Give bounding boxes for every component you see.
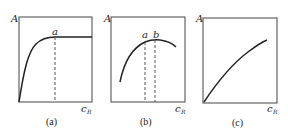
panel-b-frame: [111, 17, 185, 102]
panel-a-caption: (a): [46, 116, 57, 128]
panel-a-marker-a: a: [52, 26, 58, 37]
panel-b-marker-a: a: [142, 29, 148, 40]
panel-c-x-label-sub: R: [272, 108, 278, 115]
panel-c-y-label: A: [195, 13, 203, 24]
panel-b-x-label-sub: R: [180, 108, 186, 115]
figure: A a c R (a) A a b c R (b) A c R (c): [0, 0, 288, 133]
panel-a-y-label: A: [10, 13, 18, 24]
panel-b-y-label: A: [103, 13, 111, 24]
panel-b-marker-b: b: [153, 29, 159, 40]
panel-a-x-label-sub: R: [86, 108, 92, 115]
panel-a-curve: [19, 37, 92, 102]
panel-c-caption: (c): [232, 117, 243, 129]
panel-a: A a c R (a): [10, 13, 92, 128]
panel-c-curve: [204, 40, 267, 102]
panel-b: A a b c R (b): [103, 13, 186, 128]
panel-c-frame: [203, 18, 277, 103]
panel-b-caption: (b): [140, 116, 152, 128]
panel-c: A c R (c): [195, 13, 278, 129]
panel-b-curve: [120, 40, 176, 82]
